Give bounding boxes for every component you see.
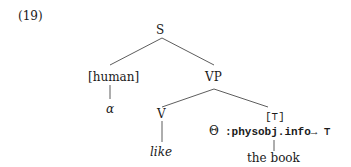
node-v: V (157, 107, 166, 121)
node-object-coercion: :physobj.info→ ⊤ (225, 125, 331, 139)
node-alpha: α (106, 102, 114, 116)
node-vp: VP (205, 70, 222, 84)
tree-edges (0, 0, 351, 167)
node-like: like (150, 145, 172, 159)
node-object-theta: Θ (209, 124, 219, 138)
node-s: S (156, 23, 164, 37)
node-object-type: [⊤] (265, 110, 285, 124)
node-the-book: the book (247, 151, 300, 165)
node-subject: [human] (88, 70, 139, 84)
